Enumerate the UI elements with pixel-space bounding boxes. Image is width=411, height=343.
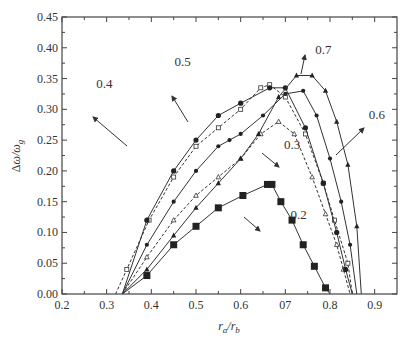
plot-frame [62, 17, 397, 294]
y-tick-label: 0.45 [37, 10, 58, 24]
y-tick-label: 0.35 [37, 72, 58, 86]
series-label-0_7: 0.7 [315, 42, 332, 57]
series-0_2 [122, 181, 330, 294]
series-label-0_3: 0.3 [284, 137, 300, 152]
annotation-arrow [172, 96, 188, 122]
x-tick-label: 07 [279, 298, 291, 312]
y-axis-title: Δω/ωg [9, 139, 25, 172]
x-tick-label: 0.4 [144, 298, 159, 312]
x-tick-label: 0.9 [367, 298, 382, 312]
y-tick-label: 0.20 [37, 164, 58, 178]
y-tick-label: 0.40 [37, 41, 58, 55]
annotation-arrow [93, 117, 127, 146]
chart: 0.20.30.40.50.60.7 0.20.30.40.50.6070.80… [0, 0, 411, 343]
y-tick-label: 0.30 [37, 102, 58, 116]
series-label-0_4: 0.4 [96, 76, 113, 91]
annotation-arrow [244, 217, 260, 231]
series-label-0_5: 0.5 [174, 54, 190, 69]
annotation-arrow [301, 55, 305, 74]
x-tick-label: 0.3 [99, 298, 114, 312]
annotation-arrow [336, 128, 364, 155]
series-label-0_2: 0.2 [291, 207, 307, 222]
series-label-0_6: 0.6 [369, 107, 386, 122]
x-tick-label: 0.8 [323, 298, 338, 312]
y-tick-label: 0.25 [37, 133, 58, 147]
y-tick-label: 0.05 [37, 256, 58, 270]
y-tick-label: 0.15 [37, 195, 58, 209]
annotation-arrow [262, 153, 279, 167]
y-tick-label: 0.10 [37, 225, 58, 239]
x-tick-label: 0.5 [189, 298, 204, 312]
x-axis-title: ra/rb [218, 319, 240, 335]
x-tick-label: 0.6 [233, 298, 248, 312]
y-tick-label: 0.00 [37, 287, 58, 301]
series-layer [116, 72, 362, 294]
